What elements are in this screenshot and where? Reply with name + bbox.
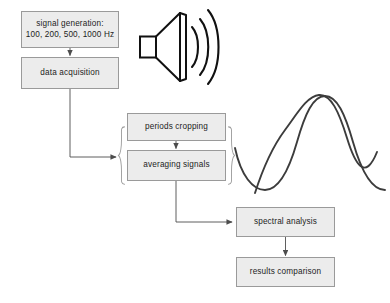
flowchart-diagram: signal generation: 100, 200, 500, 1000 H… [0,0,390,303]
box-averaging-signals[interactable]: averaging signals [127,150,226,181]
box-spectral-analysis-label: spectral analysis [254,217,317,228]
sine-waveform-glyph [233,90,390,200]
loudspeaker-icon [137,5,221,89]
box-signal-generation-line1: signal generation: [22,19,118,30]
connector-averaging-signals-to-spectral-analysis [176,181,232,222]
left-curly-brace-icon [119,127,125,184]
box-results-comparison[interactable]: results comparison [236,257,335,287]
box-averaging-signals-label: averaging signals [143,160,209,171]
box-signal-generation[interactable]: signal generation: 100, 200, 500, 1000 H… [21,11,119,48]
connector-data-acquisition-to-processing-group [70,89,116,157]
box-data-acquisition-label: data acquisition [40,68,99,79]
sound-arc-icon [192,10,219,84]
loudspeaker-glyph [137,5,221,89]
box-results-comparison-label: results comparison [250,267,321,278]
box-signal-generation-line2: 100, 200, 500, 1000 Hz [22,30,118,41]
box-spectral-analysis[interactable]: spectral analysis [236,207,335,237]
box-periods-cropping[interactable]: periods cropping [127,113,226,141]
box-periods-cropping-label: periods cropping [145,122,208,133]
box-data-acquisition[interactable]: data acquisition [21,57,119,89]
sine-waveform-icon [233,90,390,200]
